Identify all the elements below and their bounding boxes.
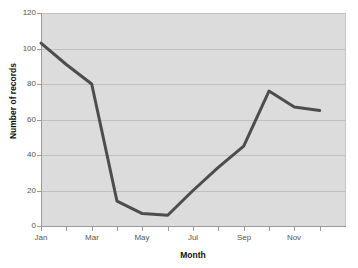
line-chart: 020406080100120 JanMarMayJulSepNov Numbe…: [0, 0, 358, 268]
x-tick-label: May: [134, 233, 149, 242]
gridline: [41, 49, 345, 50]
gridline: [41, 155, 345, 156]
x-tick-mark: [269, 227, 270, 231]
x-tick-mark: [66, 227, 67, 231]
x-tick-label: Jul: [188, 233, 198, 242]
x-tick-label: Jan: [35, 233, 48, 242]
y-tick-mark: [37, 13, 41, 14]
x-tick-mark: [294, 227, 295, 231]
x-tick-mark: [92, 227, 93, 231]
y-tick-label: 80: [27, 80, 36, 88]
x-tick-mark: [218, 227, 219, 231]
y-axis-title: Number of records: [8, 41, 18, 161]
y-tick-label: 20: [27, 187, 36, 195]
x-tick-mark: [117, 227, 118, 231]
x-tick-mark: [193, 227, 194, 231]
x-tick-label: Nov: [287, 233, 301, 242]
x-tick-mark: [244, 227, 245, 231]
y-tick-mark: [37, 191, 41, 192]
gridline: [41, 84, 345, 85]
y-tick-mark: [37, 155, 41, 156]
y-tick-mark: [37, 120, 41, 121]
x-tick-mark: [142, 227, 143, 231]
x-tick-label: Mar: [85, 233, 99, 242]
x-tick-mark: [168, 227, 169, 231]
y-tick-mark: [37, 49, 41, 50]
y-tick-label: 40: [27, 151, 36, 159]
x-tick-mark: [320, 227, 321, 231]
gridline: [41, 191, 345, 192]
y-tick-label: 120: [23, 9, 36, 17]
y-tick-mark: [37, 84, 41, 85]
y-axis-line: [41, 13, 42, 227]
y-tick-label: 0: [32, 222, 36, 230]
x-axis-title: Month: [41, 250, 345, 260]
x-tick-mark: [41, 227, 42, 231]
y-tick-label: 100: [23, 45, 36, 53]
gridline: [41, 120, 345, 121]
y-tick-label: 60: [27, 116, 36, 124]
x-tick-label: Sep: [237, 233, 251, 242]
gridline: [41, 13, 345, 14]
